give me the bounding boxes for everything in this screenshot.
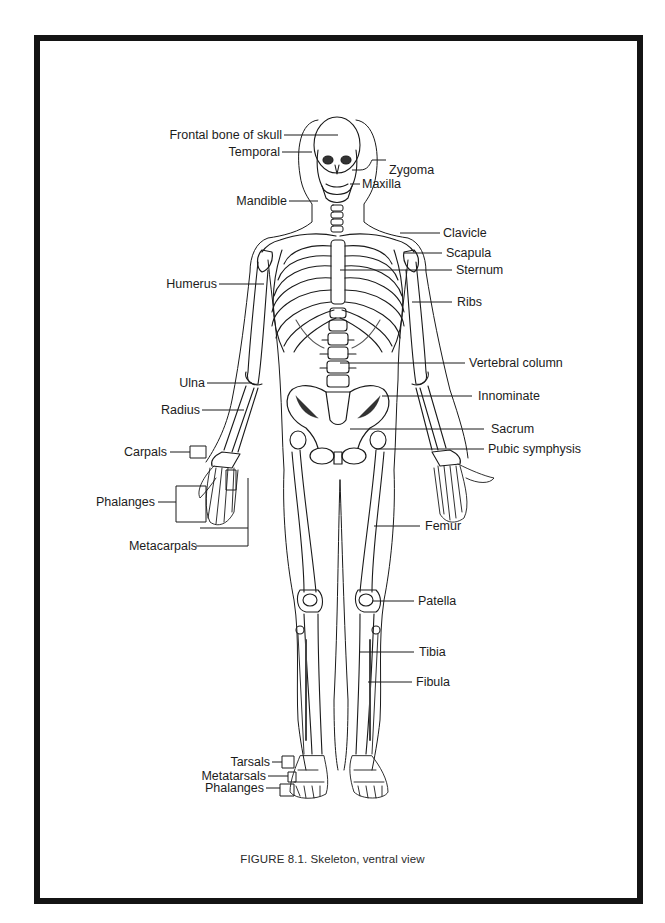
label-sacrum: Sacrum <box>491 422 534 436</box>
label-innominate: Innominate <box>478 389 540 403</box>
hand-right-side <box>199 466 238 525</box>
label-phalanges-foot: Phalanges <box>205 781 264 795</box>
label-zygoma: Zygoma <box>389 163 434 177</box>
arm-left-side <box>406 262 461 466</box>
figure-caption: FIGURE 8.1. Skeleton, ventral view <box>0 853 665 865</box>
label-maxilla: Maxilla <box>362 177 401 191</box>
lower-legs <box>298 614 378 754</box>
label-tibia: Tibia <box>419 645 446 659</box>
label-sternum: Sternum <box>456 263 503 277</box>
label-temporal: Temporal <box>229 145 280 159</box>
label-clavicle: Clavicle <box>443 226 487 240</box>
label-ribs: Ribs <box>457 295 482 309</box>
cervical-spine <box>331 205 343 232</box>
label-patella: Patella <box>418 594 456 608</box>
skeleton-illustration <box>0 0 665 923</box>
label-carpals: Carpals <box>124 445 167 459</box>
label-radius: Radius <box>161 403 200 417</box>
knees <box>296 590 381 634</box>
rib-cage <box>272 240 404 352</box>
pelvis <box>287 386 389 464</box>
label-vertebral-column: Vertebral column <box>469 356 563 370</box>
label-ulna: Ulna <box>179 376 205 390</box>
label-phalanges-hand: Phalanges <box>96 495 155 509</box>
skull <box>314 117 360 203</box>
label-mandible: Mandible <box>236 194 287 208</box>
label-pubic-symphysis: Pubic symphysis <box>488 442 581 456</box>
lumbar-spine <box>320 308 356 387</box>
label-fibula: Fibula <box>416 675 450 689</box>
label-tarsals: Tarsals <box>230 755 270 769</box>
label-femur: Femur <box>425 519 461 533</box>
label-frontal-bone: Frontal bone of skull <box>169 128 282 142</box>
label-humerus: Humerus <box>166 277 217 291</box>
label-metacarpals: Metacarpals <box>129 539 197 553</box>
label-scapula: Scapula <box>446 246 491 260</box>
hand-left-side <box>434 464 494 522</box>
